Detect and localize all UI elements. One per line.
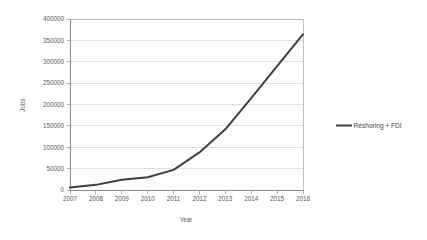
y-tick-label: 200000 (43, 101, 65, 108)
x-tick-label: 2009 (115, 195, 130, 202)
y-tick-label: 400000 (43, 15, 65, 22)
x-tick-label: 2016 (296, 195, 311, 202)
x-axis-title: Year (180, 216, 193, 223)
y-axis-title: Jobs (19, 98, 26, 111)
y-tick-label: 300000 (43, 58, 65, 65)
x-tick-marks (70, 190, 303, 194)
x-tick-label: 2011 (167, 195, 181, 202)
legend-label-reshoring-fdi: Reshoring + FDI (354, 122, 402, 130)
y-tick-label: 350000 (43, 37, 65, 44)
y-tick-label: 0 (60, 186, 64, 193)
x-tick-label: 2008 (89, 195, 104, 202)
x-tick-label: 2010 (141, 195, 156, 202)
y-tick-label: 150000 (43, 122, 65, 129)
x-tick-label: 2012 (192, 195, 207, 202)
x-tick-label: 2014 (244, 195, 259, 202)
line-chart: 400000 350000 300000 250000 200000 15000… (0, 0, 427, 240)
y-tick-label: 250000 (43, 79, 65, 86)
y-axis-tick-labels: 400000 350000 300000 250000 200000 15000… (43, 15, 65, 193)
x-tick-label: 2007 (63, 195, 78, 202)
y-tick-marks (67, 19, 71, 190)
y-tick-label: 100000 (43, 144, 65, 151)
chart-legend: Reshoring + FDI (336, 122, 402, 130)
y-tick-label: 50000 (46, 165, 64, 172)
x-tick-label: 2015 (270, 195, 285, 202)
x-axis-tick-labels: 2007 2008 2009 2010 2011 2012 2013 2014 … (63, 195, 311, 202)
x-tick-label: 2013 (218, 195, 233, 202)
chart-container: 400000 350000 300000 250000 200000 15000… (0, 0, 427, 240)
